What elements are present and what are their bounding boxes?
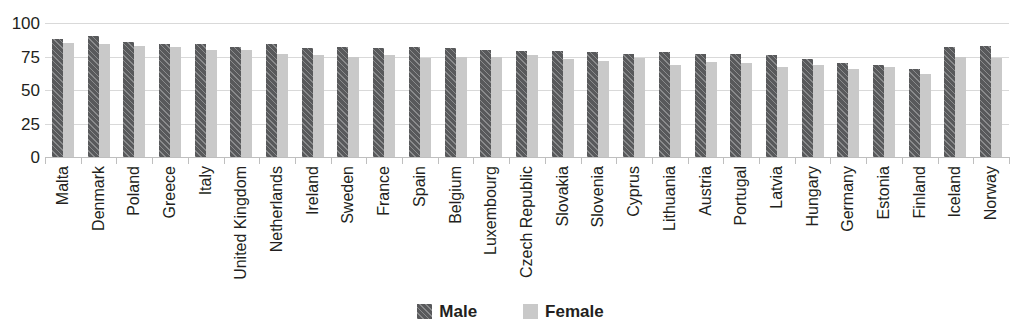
y-tick-label: 50 — [21, 82, 40, 99]
legend-item-female[interactable]: Female — [523, 303, 604, 320]
bar-female — [241, 50, 252, 157]
bar-group — [759, 23, 795, 157]
x-tick — [795, 157, 796, 164]
x-axis-label: Belgium — [448, 166, 464, 224]
bar-male — [302, 48, 313, 157]
y-tick-label: 100 — [12, 15, 40, 32]
bar-female — [634, 58, 645, 157]
x-label-cell: Italy — [188, 164, 224, 294]
x-axis-label: Poland — [126, 166, 142, 216]
bar-male — [909, 69, 920, 157]
x-axis-label: Spain — [412, 166, 428, 207]
x-label-cell: Greece — [152, 164, 188, 294]
x-tick — [545, 157, 546, 164]
bar-female — [741, 63, 752, 157]
bar-male — [230, 47, 241, 157]
x-tick — [688, 157, 689, 164]
x-label-cell: Finland — [902, 164, 938, 294]
x-axis-label: Czech Republic — [519, 166, 535, 278]
x-tick — [723, 157, 724, 164]
legend-label: Male — [439, 303, 477, 320]
x-tick — [652, 157, 653, 164]
x-tick — [295, 157, 296, 164]
bar-group — [366, 23, 402, 157]
bar-male — [159, 44, 170, 157]
x-axis-label: Malta — [55, 166, 71, 205]
bar-male — [730, 54, 741, 157]
x-axis-label: Greece — [162, 166, 178, 218]
bar-male — [480, 50, 491, 157]
x-label-cell: Iceland — [938, 164, 974, 294]
bar-female — [99, 44, 110, 157]
x-tick — [45, 157, 46, 164]
bar-group — [545, 23, 581, 157]
x-axis-labels: MaltaDenmarkPolandGreeceItalyUnited King… — [45, 164, 1009, 294]
bar-female — [955, 57, 966, 158]
x-label-cell: Luxembourg — [473, 164, 509, 294]
bar-male — [409, 47, 420, 157]
bar-male — [337, 47, 348, 157]
bar-female — [456, 57, 467, 158]
bar-group — [116, 23, 152, 157]
x-axis-label: Norway — [983, 166, 999, 220]
bar-female — [563, 59, 574, 157]
bar-male — [587, 52, 598, 157]
x-axis-label: Italy — [198, 166, 214, 195]
x-label-cell: Hungary — [795, 164, 831, 294]
bar-female — [491, 57, 502, 158]
legend-item-male[interactable]: Male — [417, 303, 477, 320]
bar-female — [884, 67, 895, 157]
bar-female — [598, 61, 609, 157]
x-tick — [224, 157, 225, 164]
bar-male — [980, 46, 991, 157]
female-swatch — [523, 304, 538, 319]
x-tick — [331, 157, 332, 164]
x-tick — [402, 157, 403, 164]
x-label-cell: Belgium — [438, 164, 474, 294]
x-tick — [902, 157, 903, 164]
bar-male — [873, 65, 884, 157]
bar-group — [688, 23, 724, 157]
x-label-cell: Sweden — [331, 164, 367, 294]
bar-group — [938, 23, 974, 157]
bar-male — [659, 52, 670, 157]
x-label-cell: Lithuania — [652, 164, 688, 294]
x-axis-label: France — [376, 166, 392, 216]
bar-male — [123, 42, 134, 157]
x-label-cell: Germany — [830, 164, 866, 294]
x-label-cell: France — [366, 164, 402, 294]
x-tick — [938, 157, 939, 164]
bar-group — [616, 23, 652, 157]
bar-group — [81, 23, 117, 157]
x-tick — [759, 157, 760, 164]
bar-female — [670, 65, 681, 157]
x-label-cell: Norway — [973, 164, 1009, 294]
x-axis-label: Estonia — [876, 166, 892, 219]
bar-group — [224, 23, 260, 157]
bar-female — [63, 43, 74, 157]
x-axis-label: Sweden — [340, 166, 356, 224]
x-tick — [81, 157, 82, 164]
x-tick — [366, 157, 367, 164]
bar-female — [277, 54, 288, 157]
bar-group — [152, 23, 188, 157]
bar-groups — [45, 23, 1009, 157]
bar-group — [866, 23, 902, 157]
bar-group — [723, 23, 759, 157]
x-label-cell: Slovenia — [581, 164, 617, 294]
x-axis-label: Germany — [840, 166, 856, 232]
x-axis-label: Ireland — [305, 166, 321, 215]
x-axis-label: Latvia — [769, 166, 785, 209]
x-axis-label: Hungary — [805, 166, 821, 226]
bar-group — [973, 23, 1009, 157]
x-axis-label: Lithuania — [662, 166, 678, 231]
x-tick — [259, 157, 260, 164]
x-tick — [866, 157, 867, 164]
y-tick-label: 0 — [31, 149, 40, 166]
x-label-cell: Cyprus — [616, 164, 652, 294]
x-tick — [1009, 157, 1010, 164]
bar-group — [295, 23, 331, 157]
bar-female — [384, 55, 395, 157]
x-label-cell: Czech Republic — [509, 164, 545, 294]
x-label-cell: Denmark — [81, 164, 117, 294]
